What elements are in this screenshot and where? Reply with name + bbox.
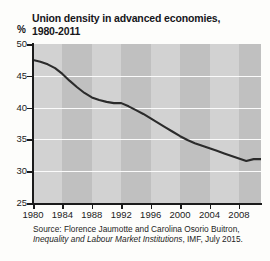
x-axis-tick-label: 2000	[166, 210, 194, 220]
plot-area	[33, 44, 261, 203]
line-series-union-density	[33, 44, 261, 203]
source-publication-title: Inequality and Labour Market Institution…	[33, 234, 182, 244]
y-axis-tick	[27, 139, 32, 141]
x-axis-tick-label: 1980	[19, 210, 47, 220]
y-axis-tick-label: 50	[5, 39, 27, 49]
y-axis-tick-label: 25	[5, 198, 27, 208]
chart-title-line-1: Union density in advanced economies,	[32, 12, 264, 25]
source-line-1: Source: Florence Jaumotte and Carolina O…	[33, 224, 263, 234]
chart-title-line-2: 1980-2011	[32, 25, 264, 38]
x-axis-tick-label: 2004	[196, 210, 224, 220]
x-axis-tick-label: 1996	[137, 210, 165, 220]
y-axis-tick	[27, 203, 32, 205]
y-axis-tick-label: 40	[5, 103, 27, 113]
source-line-2: Inequality and Labour Market Institution…	[33, 234, 263, 244]
chart-figure: Union density in advanced economies, 198…	[0, 0, 270, 261]
y-axis-unit-label: %	[17, 24, 26, 35]
source-publication-meta: , IMF, July 2015.	[182, 234, 242, 244]
y-axis-line	[32, 43, 34, 204]
source-note: Source: Florence Jaumotte and Carolina O…	[33, 224, 263, 244]
y-axis-tick	[27, 76, 32, 78]
y-axis-tick-label: 35	[5, 134, 27, 144]
x-axis-tick-label: 2008	[225, 210, 253, 220]
y-axis-tick	[27, 44, 32, 46]
x-axis-line	[31, 203, 262, 205]
x-axis-tick-label: 1988	[78, 210, 106, 220]
y-axis-tick-label: 45	[5, 71, 27, 81]
chart-title: Union density in advanced economies, 198…	[32, 12, 264, 37]
y-axis-tick	[27, 108, 32, 110]
y-axis-tick	[27, 171, 32, 173]
x-axis-tick-label: 1984	[48, 210, 76, 220]
y-axis-tick-label: 30	[5, 166, 27, 176]
x-axis-tick-label: 1992	[107, 210, 135, 220]
